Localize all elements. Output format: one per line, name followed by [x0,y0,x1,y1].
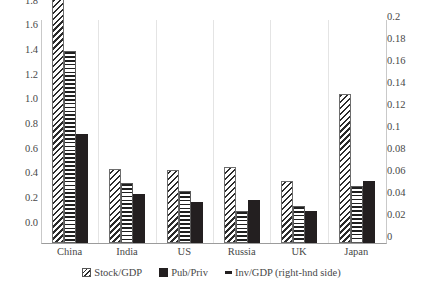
right-axis-tick: 0.02 [387,209,421,221]
left-axis-tick: 1.0 [4,93,38,105]
bar-pub-priv-uk [293,206,305,243]
bar-pub-priv-japan [351,186,363,243]
bar-group-china [42,20,99,243]
legend-label-inv-gdp: Inv/GDP (right-hnd side) [235,267,341,278]
legend-item-inv-gdp: Inv/GDP (right-hnd side) [225,267,341,278]
category-axis-labels: China India US Russia UK Japan [41,246,385,262]
right-axis-tick-labels: 0 0.02 0.04 0.06 0.08 0.1 0.12 0.14 0.16… [387,14,421,249]
legend-item-pub-priv: Pub/Priv [159,267,208,278]
right-axis-tick: 0.14 [387,77,421,89]
bar-inv-gdp-india [133,194,145,244]
bar-stock-gdp-uk [281,181,293,243]
right-axis-tick: 0 [387,231,421,243]
bar-group-japan [329,20,386,243]
left-axis-tick: 0.6 [4,143,38,155]
bar-stock-gdp-india [109,169,121,243]
left-axis-tick-labels: 0.0 0.2 0.4 0.6 0.8 1.0 1.2 1.4 1.6 1.8 [4,14,38,249]
solid-square-swatch-icon [159,268,168,277]
bar-inv-gdp-russia [248,200,260,243]
right-axis-tick: 0.12 [387,99,421,111]
right-axis-tick: 0.16 [387,55,421,67]
right-axis-tick: 0.1 [387,121,421,133]
bar-stock-gdp-japan [339,94,351,243]
bar-pub-priv-china [64,51,76,243]
category-label-japan: Japan [328,246,385,257]
left-axis-tick: 1.6 [4,19,38,31]
category-label-uk: UK [270,246,327,257]
bar-stock-gdp-china [52,0,64,243]
legend-label-stock-gdp: Stock/GDP [94,267,142,278]
legend-item-stock-gdp: Stock/GDP [82,267,142,278]
bar-inv-gdp-japan [363,181,375,243]
right-axis-tick: 0.08 [387,143,421,155]
left-axis-tick: 0.0 [4,217,38,229]
chart-legend: Stock/GDP Pub/Priv Inv/GDP (right-hnd si… [0,267,423,278]
bar-stock-gdp-us [167,170,179,243]
left-axis-tick: 1.2 [4,69,38,81]
bar-group-russia [214,20,271,243]
right-axis-tick: 0.18 [387,33,421,45]
solid-dash-swatch-icon [225,271,232,274]
category-label-india: India [98,246,155,257]
bar-inv-gdp-uk [305,211,317,243]
bar-chart: 0.0 0.2 0.4 0.6 0.8 1.0 1.2 1.4 1.6 1.8 … [0,0,423,296]
bar-pub-priv-india [121,183,133,243]
left-axis-tick: 0.4 [4,167,38,179]
plot-area [42,20,386,243]
bar-pub-priv-us [179,191,191,243]
bar-inv-gdp-china [76,134,88,243]
bar-pub-priv-russia [236,211,248,243]
left-axis-tick: 1.4 [4,44,38,56]
bar-group-india [99,20,156,243]
right-axis-tick: 0.2 [387,11,421,23]
left-axis-tick: 0.8 [4,118,38,130]
right-axis-tick: 0.04 [387,187,421,199]
bar-stock-gdp-russia [224,167,236,243]
plot-frame [41,20,387,244]
category-label-us: US [156,246,213,257]
diagonal-hatch-swatch-icon [82,268,91,277]
bar-inv-gdp-us [191,202,203,243]
category-label-china: China [41,246,98,257]
bar-group-us [157,20,214,243]
right-axis-tick: 0.06 [387,165,421,177]
left-axis-tick: 0.2 [4,192,38,204]
category-label-russia: Russia [213,246,270,257]
legend-label-pub-priv: Pub/Priv [171,267,208,278]
left-axis-tick: 1.8 [4,0,38,7]
bar-group-uk [271,20,328,243]
